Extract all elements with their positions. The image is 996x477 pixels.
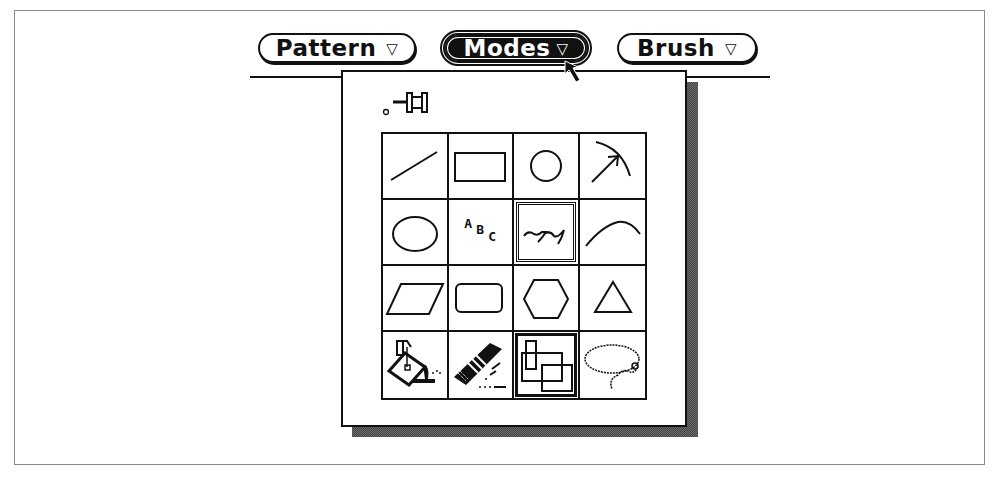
freehand-icon xyxy=(516,202,576,262)
tool-circle[interactable] xyxy=(514,134,580,200)
pattern-menu-button[interactable]: Pattern ▽ xyxy=(258,33,416,63)
line-icon xyxy=(385,136,445,196)
airbrush-icon xyxy=(450,335,510,395)
rectangle-icon xyxy=(450,136,510,196)
curve-icon xyxy=(582,202,642,262)
overlapping-rectangles-icon xyxy=(516,335,576,395)
tool-lasso[interactable] xyxy=(580,332,646,398)
chevron-down-icon: ▽ xyxy=(386,40,398,58)
tool-curve[interactable] xyxy=(580,200,646,266)
tool-arc-arrow[interactable] xyxy=(580,134,646,200)
tool-parallelogram[interactable] xyxy=(383,266,449,332)
tool-ellipse[interactable] xyxy=(383,200,449,266)
ellipse-icon xyxy=(385,202,445,262)
tool-rounded-rectangle[interactable] xyxy=(449,266,515,332)
modes-dropdown-menu: A B C xyxy=(341,70,687,427)
modes-menu-label: Modes xyxy=(464,35,551,61)
tool-airbrush[interactable] xyxy=(449,332,515,398)
mouse-pointer-icon xyxy=(562,58,592,88)
tool-paint-bucket[interactable] xyxy=(383,332,449,398)
tool-rectangle[interactable] xyxy=(449,134,515,200)
text-icon: A B C xyxy=(450,202,510,262)
rounded-rectangle-icon xyxy=(450,268,510,328)
pattern-menu-label: Pattern xyxy=(276,35,377,61)
tool-palette-grid: A B C xyxy=(381,132,647,400)
triangle-icon xyxy=(582,268,642,328)
lasso-icon xyxy=(582,335,642,395)
brush-menu-label: Brush xyxy=(637,35,715,61)
tool-select-move[interactable] xyxy=(514,332,580,398)
tool-freehand[interactable] xyxy=(514,200,580,266)
parallelogram-icon xyxy=(385,268,445,328)
chevron-down-icon: ▽ xyxy=(725,40,737,58)
menubar-divider-left xyxy=(250,76,342,78)
brush-menu-button[interactable]: Brush ▽ xyxy=(617,33,757,63)
tool-triangle[interactable] xyxy=(580,266,646,332)
chevron-down-icon: ▽ xyxy=(556,40,568,58)
circle-icon xyxy=(516,136,576,196)
arc-arrow-icon xyxy=(582,136,642,196)
tool-line[interactable] xyxy=(383,134,449,200)
hexagon-icon xyxy=(516,268,576,328)
tool-hexagon[interactable] xyxy=(514,266,580,332)
paint-bucket-icon xyxy=(385,335,445,395)
pushpin-icon[interactable] xyxy=(381,88,437,118)
tool-text[interactable]: A B C xyxy=(449,200,515,266)
menubar-divider-right xyxy=(686,76,770,78)
